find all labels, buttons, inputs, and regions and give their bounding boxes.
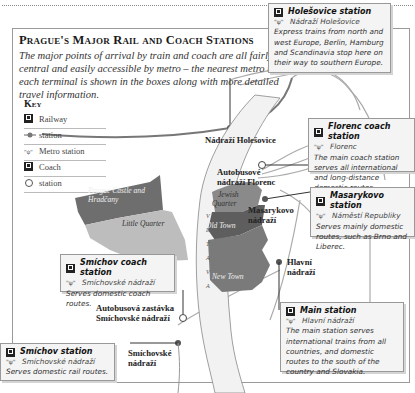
info-box-masarykovo: Masarykovo station "ψ"Náměstí Republiky … xyxy=(310,187,415,237)
district-label-old-town: Old Town xyxy=(206,221,235,230)
district-label-new-town: New Town xyxy=(212,272,244,281)
info-box-florenc: Florenc coach station "ψ"Florenc The mai… xyxy=(308,118,415,172)
key-item-coach: Coach xyxy=(24,160,106,177)
metro-icon: "ψ" xyxy=(314,142,326,152)
label-smichov-coach-1: Autobusová zastávka xyxy=(96,303,174,313)
metro-icon: "ψ" xyxy=(6,357,18,367)
coach-icon xyxy=(66,264,75,273)
label-florenc-1: Autobusové xyxy=(217,167,260,177)
label-smichov-1: Smíchovské xyxy=(128,348,171,358)
railway-icon xyxy=(316,197,325,206)
coach-icon xyxy=(24,162,36,173)
info-box-smichov: Smíchov station "ψ"Smíchovské nádraží Se… xyxy=(0,343,115,381)
label-hlavni-1: Hlavní xyxy=(287,257,312,267)
district-label-castle-2: Hradčany xyxy=(88,195,118,204)
metro-icon: "ψ" xyxy=(24,146,36,157)
label-smichov-2: nádraží xyxy=(128,358,156,368)
metro-icon: "ψ" xyxy=(274,17,286,27)
metro-icon: "ψ" xyxy=(286,316,298,326)
key-item-railway-station: station xyxy=(24,128,106,145)
label-smichov-coach-2: Smíchovské nádraží xyxy=(96,313,170,323)
masarykovo-station-dot xyxy=(262,196,268,202)
svg-text:A: A xyxy=(205,283,210,289)
label-holesovice: Nádraží Holešovice xyxy=(205,135,276,145)
railway-icon xyxy=(6,348,15,357)
smichov-coach-marker xyxy=(180,315,187,322)
key-item-railway: Railway xyxy=(24,112,106,129)
key-item-metro: "ψ" Metro station xyxy=(24,144,106,161)
key-title: Key xyxy=(24,98,42,109)
metro-icon: "ψ" xyxy=(316,211,328,221)
label-masarykovo-1: Masarykovo xyxy=(248,205,294,215)
district-label-little-quarter: Little Quarter xyxy=(122,219,164,228)
label-masarykovo-2: nádraží xyxy=(248,215,276,225)
info-box-main-station: Main station "ψ"Hlavní nádraží The main … xyxy=(280,302,404,372)
railway-icon xyxy=(274,8,283,17)
railway-icon xyxy=(24,114,36,125)
info-box-smichov-coach: Smíchov coach station "ψ"Smíchovské nádr… xyxy=(60,254,175,292)
metro-icon: "ψ" xyxy=(66,278,78,288)
label-florenc-2: nádraží Florenc xyxy=(217,177,275,187)
info-box-holesovice: Holešovice station "ψ"Nádraží Holešovice… xyxy=(268,3,391,73)
coach-station-circle-icon xyxy=(24,178,36,189)
district-label-jewish-1: Jewish xyxy=(218,190,239,199)
coach-icon xyxy=(314,128,323,137)
district-label-jewish-2: Quarter xyxy=(212,199,236,208)
railway-station-dot-icon xyxy=(24,130,36,141)
label-hlavni-2: nádraží xyxy=(287,267,315,277)
svg-text:A: A xyxy=(205,255,210,261)
page-title: Prague's Major Rail and Coach Stations xyxy=(19,33,254,48)
district-label-castle-1: Prague Castle and xyxy=(88,186,145,195)
railway-icon xyxy=(286,307,295,316)
intro-text: The major points of arrival by train and… xyxy=(19,49,279,101)
